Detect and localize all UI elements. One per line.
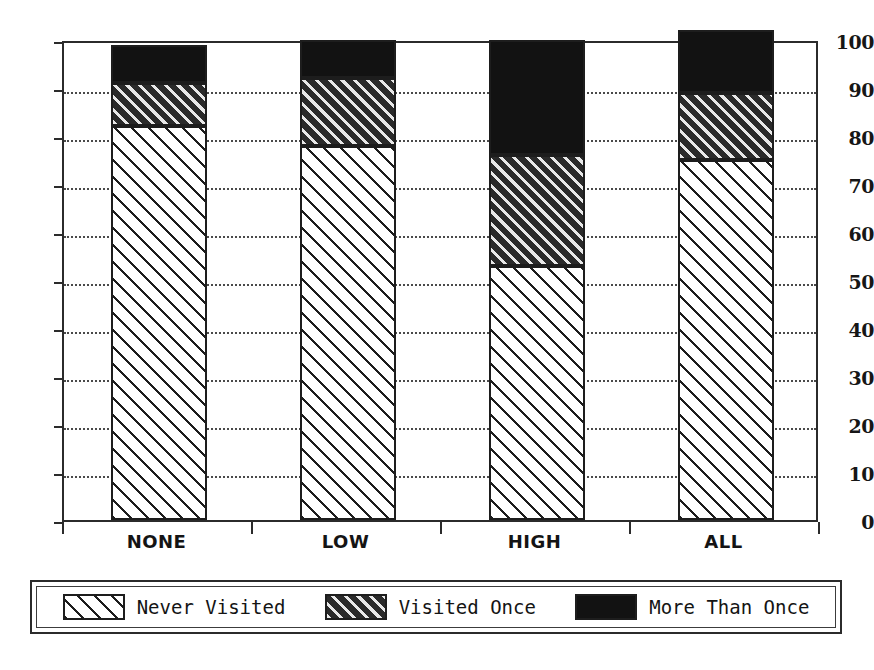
bar-segment-visited-once [111, 83, 207, 126]
y-tick-label: 30 [828, 367, 874, 389]
x-tick-mark [251, 522, 253, 534]
y-tick-label: 100 [828, 31, 874, 53]
legend-label: More Than Once [649, 596, 809, 618]
legend-swatch [325, 594, 387, 620]
bar-segment-visited-once [489, 155, 585, 265]
bar-segment-never-visited [300, 146, 396, 520]
legend-item-visited-once: Visited Once [325, 594, 536, 620]
legend-label: Never Visited [137, 596, 286, 618]
bar-segment-more-than-once [111, 45, 207, 83]
y-tick-label: 0 [828, 511, 874, 533]
y-tick-label: 10 [828, 463, 874, 485]
x-tick-label-none: NONE [77, 531, 237, 552]
legend-items-row: Never VisitedVisited OnceMore Than Once [36, 586, 836, 628]
legend-swatch [63, 594, 125, 620]
bar-group-high [489, 39, 585, 520]
x-tick-mark [629, 522, 631, 534]
x-tick-mark [818, 522, 820, 534]
bar-group-all [678, 39, 774, 520]
bar-segment-visited-once [300, 78, 396, 145]
chart-legend: Never VisitedVisited OnceMore Than Once [30, 580, 842, 634]
legend-swatch [575, 594, 637, 620]
legend-item-never-visited: Never Visited [63, 594, 286, 620]
x-tick-label-all: ALL [644, 531, 804, 552]
y-tick-label: 70 [828, 175, 874, 197]
legend-label: Visited Once [399, 596, 536, 618]
bar-segment-more-than-once [300, 40, 396, 78]
bar-group-low [300, 39, 396, 520]
bar-group-none [111, 39, 207, 520]
x-tick-mark [440, 522, 442, 534]
plot-area [62, 41, 818, 522]
y-tick-label: 60 [828, 223, 874, 245]
y-tick-label: 50 [828, 271, 874, 293]
bar-segment-never-visited [111, 126, 207, 520]
x-tick-mark [62, 522, 64, 534]
legend-item-more-than-once: More Than Once [575, 594, 809, 620]
bar-segment-never-visited [678, 160, 774, 520]
bar-segment-more-than-once [678, 30, 774, 92]
bar-segment-never-visited [489, 266, 585, 520]
y-tick-label: 90 [828, 79, 874, 101]
chart-figure: 1009080706050403020100 NONELOWHIGHALL Ne… [0, 0, 874, 670]
y-tick-label: 20 [828, 415, 874, 437]
x-tick-label-high: HIGH [455, 531, 615, 552]
bar-segment-visited-once [678, 93, 774, 160]
x-tick-label-low: LOW [266, 531, 426, 552]
y-tick-label: 80 [828, 127, 874, 149]
bar-segment-more-than-once [489, 40, 585, 155]
y-tick-label: 40 [828, 319, 874, 341]
